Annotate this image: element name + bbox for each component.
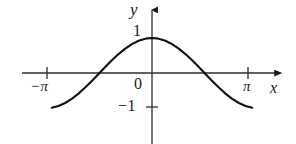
y-tick-label-one: 1: [133, 23, 141, 39]
cosine-graph-figure: y x 1 0 −1 −π π: [0, 0, 296, 144]
x-tick-label-negative-pi: −π: [30, 79, 49, 94]
x-tick-label-positive-pi: π: [243, 79, 251, 94]
origin-label: 0: [134, 76, 142, 92]
y-axis-label: y: [130, 1, 138, 18]
plot-canvas: [0, 0, 296, 144]
x-axis-label: x: [270, 80, 277, 96]
y-tick-label-negative-one: −1: [118, 98, 136, 114]
